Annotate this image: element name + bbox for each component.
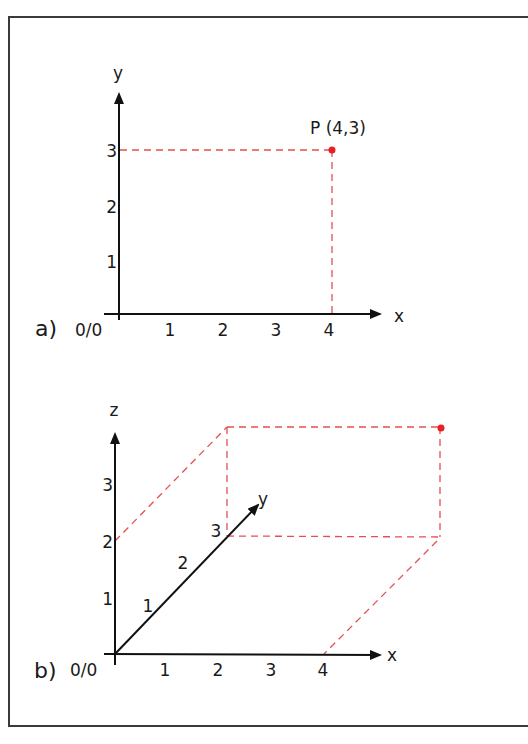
guide-line-bottom bbox=[227, 536, 440, 537]
y-tick-3: 3 bbox=[211, 521, 222, 541]
x-tick-4: 4 bbox=[318, 660, 329, 680]
x-tick-2: 2 bbox=[213, 660, 224, 680]
panel-a-label: a) bbox=[35, 316, 57, 341]
z-tick-2: 2 bbox=[102, 532, 113, 552]
z-axis-label: z bbox=[110, 400, 119, 420]
y-tick-2: 2 bbox=[106, 197, 117, 217]
x-tick-2: 2 bbox=[218, 320, 229, 340]
panel-b-label: b) bbox=[34, 658, 57, 683]
panel-a-2d-coordinates: y x P (4,3) 3 2 1 1 2 3 4 0/0 a) bbox=[35, 63, 404, 341]
z-tick-1: 1 bbox=[102, 589, 113, 609]
y-tick-2: 2 bbox=[178, 553, 189, 573]
y-tick-1: 1 bbox=[106, 252, 117, 272]
point-p-label: P (4,3) bbox=[310, 118, 366, 138]
origin-label: 0/0 bbox=[75, 320, 102, 340]
y-axis bbox=[115, 505, 258, 654]
x-axis bbox=[104, 654, 380, 655]
origin-label: 0/0 bbox=[70, 660, 97, 680]
x-tick-3: 3 bbox=[266, 660, 277, 680]
x-tick-3: 3 bbox=[271, 320, 282, 340]
x-tick-1: 1 bbox=[160, 660, 171, 680]
y-axis-label: y bbox=[258, 489, 268, 509]
x-axis-label: x bbox=[394, 306, 404, 326]
y-axis-label: y bbox=[113, 63, 123, 83]
z-tick-3: 3 bbox=[102, 475, 113, 495]
y-tick-1: 1 bbox=[143, 596, 154, 616]
x-tick-1: 1 bbox=[165, 320, 176, 340]
point-marker bbox=[438, 425, 445, 432]
panel-b-3d-coordinates: z y x 3 2 1 1 2 3 1 2 3 4 0/0 b) bbox=[34, 400, 445, 683]
x-axis-label: x bbox=[387, 645, 397, 665]
y-tick-3: 3 bbox=[106, 141, 117, 161]
guide-line-x4-diagonal bbox=[324, 541, 437, 654]
point-p-marker bbox=[329, 147, 336, 154]
x-tick-4: 4 bbox=[324, 320, 335, 340]
